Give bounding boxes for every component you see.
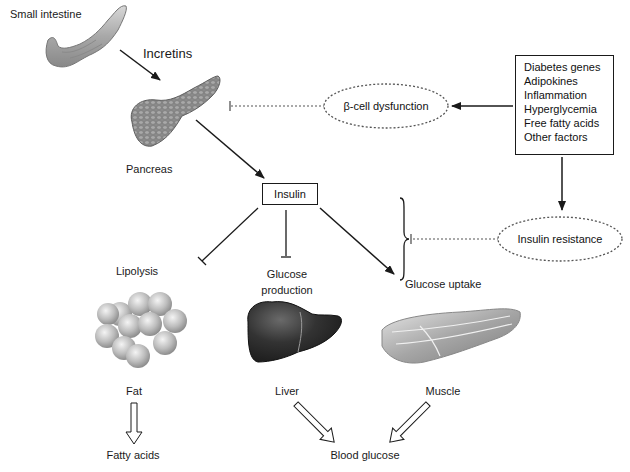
fat-illustration	[95, 292, 187, 368]
fat-to-fatty-acids-arrow	[126, 403, 142, 444]
liver-to-blood-glucose-arrow	[290, 398, 339, 447]
fat-label: Fat	[126, 385, 142, 397]
glucose-production-label-line2: production	[261, 284, 312, 296]
factor-item: Hyperglycemia	[524, 102, 613, 116]
muscle-illustration	[382, 309, 520, 363]
small-intestine-label: Small intestine	[10, 8, 82, 20]
beta-cell-dysfunction-label: β-cell dysfunction	[324, 96, 448, 116]
insulin-resistance-label: Insulin resistance	[498, 229, 622, 249]
incretins-label: Incretins	[143, 46, 192, 61]
insulin-glucose-uptake-arrow	[320, 208, 394, 274]
lipolysis-label: Lipolysis	[116, 265, 158, 277]
insulin-lipolysis-inhibit-line	[202, 208, 258, 261]
muscle-label: Muscle	[426, 385, 461, 397]
muscle-to-blood-glucose-arrow	[384, 398, 433, 447]
factor-item: Diabetes genes	[524, 60, 613, 74]
liver-label: Liver	[275, 385, 299, 397]
factor-item: Adipokines	[524, 74, 613, 88]
curly-brace	[400, 198, 409, 280]
blood-glucose-label: Blood glucose	[330, 449, 399, 461]
liver-illustration	[248, 302, 342, 362]
insulin-box: Insulin	[262, 183, 318, 205]
factor-item: Inflammation	[524, 88, 613, 102]
glucose-production-label-line1: Glucose	[267, 268, 307, 280]
factor-item: Free fatty acids	[524, 116, 613, 130]
pancreas-illustration	[131, 76, 220, 146]
pancreas-label: Pancreas	[126, 163, 172, 175]
factor-item: Other factors	[524, 130, 613, 144]
pancreas-to-insulin-arrow	[196, 120, 264, 178]
risk-factors-box: Diabetes genes Adipokines Inflammation H…	[515, 55, 614, 155]
glucose-uptake-label: Glucose uptake	[405, 278, 481, 290]
fatty-acids-label: Fatty acids	[106, 449, 159, 461]
